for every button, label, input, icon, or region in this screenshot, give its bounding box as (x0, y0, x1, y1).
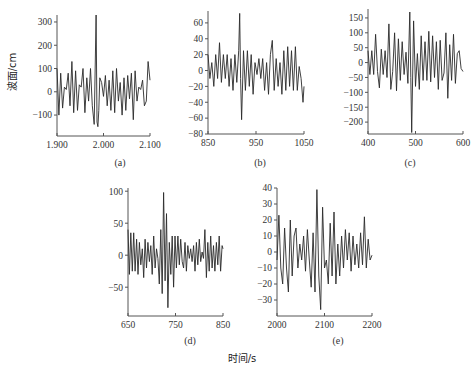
y-tick-label: −100 (32, 110, 52, 120)
wave-series-line (277, 190, 372, 310)
y-tick-label: 100 (109, 187, 124, 197)
x-tick-label: 2200 (363, 320, 382, 330)
x-tick-label: 400 (361, 138, 376, 148)
y-tick-label: 20 (194, 50, 204, 60)
y-tick-label: 40 (194, 34, 204, 44)
x-tick-label: 950 (249, 138, 264, 148)
panel-label: (a) (114, 157, 125, 169)
y-tick-label: 20 (263, 215, 273, 225)
x-tick-label: 1.900 (46, 140, 68, 150)
panel-e: 403020100−10−20−30200021002200(e) (257, 183, 382, 347)
wave-series-line (208, 13, 304, 119)
y-tick-label: −200 (343, 117, 363, 127)
x-axis-title: 时间/s (228, 352, 257, 364)
panel-d: 100500−50650750850(d) (108, 187, 230, 348)
y-tick-label: −50 (108, 283, 123, 293)
x-tick-label: 850 (201, 138, 216, 148)
y-tick-label: −10 (257, 263, 272, 273)
x-tick-label: 650 (121, 320, 136, 330)
wave-series-line (57, 15, 150, 127)
y-tick-label: 100 (38, 64, 53, 74)
x-tick-label: 1050 (295, 138, 314, 148)
y-tick-label: −20 (188, 82, 203, 92)
panel-b: 6040200−20−40−60−808509501050(b) (188, 11, 314, 169)
x-tick-label: 850 (216, 320, 231, 330)
x-tick-label: 500 (408, 138, 423, 148)
panel-label: (c) (404, 157, 415, 169)
x-tick-label: 750 (168, 320, 183, 330)
y-tick-label: 60 (194, 18, 204, 28)
y-tick-label: −60 (188, 113, 203, 123)
panel-label: (b) (254, 157, 266, 169)
y-tick-label: −150 (343, 103, 363, 113)
y-tick-label: 50 (354, 43, 364, 53)
wave-series-line (368, 12, 463, 133)
y-tick-label: 0 (118, 251, 123, 261)
y-tick-label: 0 (198, 66, 203, 76)
x-tick-label: 2.000 (93, 140, 115, 150)
x-tick-label: 2.100 (139, 140, 161, 150)
y-axis-title: 波面/cm (6, 53, 18, 92)
y-tick-label: 10 (263, 231, 273, 241)
x-tick-label: 2000 (268, 320, 287, 330)
panel-label: (d) (184, 335, 196, 347)
x-tick-label: 600 (456, 138, 471, 148)
y-tick-label: 0 (47, 87, 52, 97)
y-tick-label: 200 (38, 41, 53, 51)
y-tick-label: −40 (188, 98, 203, 108)
panel-c: 150100500−50−100−150−200400500600(c) (343, 9, 470, 169)
y-tick-label: 40 (263, 183, 273, 193)
y-tick-label: −50 (348, 73, 363, 83)
y-tick-label: 0 (267, 247, 272, 257)
y-tick-label: 30 (263, 199, 273, 209)
panel-a: 3002001000−1001.9002.0002.100(a) (32, 15, 161, 169)
y-tick-label: 100 (349, 28, 364, 38)
y-tick-label: 150 (349, 13, 364, 23)
y-tick-label: 50 (114, 219, 124, 229)
figure-canvas: 波面/cm 时间/s 3002001000−1001.9002.0002.100… (0, 0, 475, 374)
y-tick-label: −100 (343, 88, 363, 98)
y-tick-label: 300 (38, 17, 53, 27)
x-tick-label: 2100 (315, 320, 334, 330)
wave-series-line (128, 193, 223, 308)
panel-label: (e) (332, 335, 343, 347)
y-tick-label: −30 (257, 295, 272, 305)
y-tick-label: 0 (358, 58, 363, 68)
y-tick-label: −20 (257, 279, 272, 289)
